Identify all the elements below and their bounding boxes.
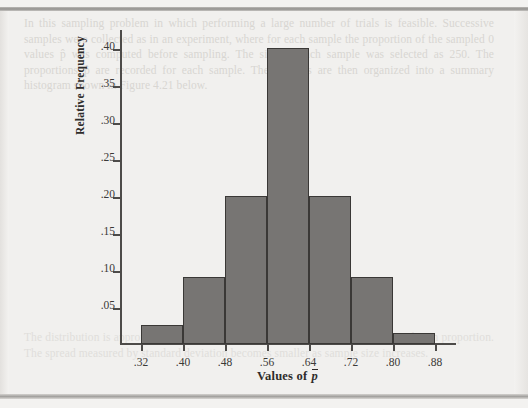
y-axis-tick-label: .25 [101, 152, 115, 164]
textbook-page: In this sampling problem in which perfor… [0, 0, 528, 408]
x-axis-tick-label: .88 [428, 357, 442, 369]
y-axis-line [120, 30, 122, 345]
x-axis-title-text: Values of [257, 369, 311, 383]
x-axis-tick-label: .32 [134, 357, 148, 369]
y-axis-title: Relative Frequency [74, 36, 86, 135]
x-axis-tick-label: .40 [176, 357, 190, 369]
y-axis-tick-label: .30 [101, 115, 115, 127]
x-axis-title: Values of p [120, 369, 456, 384]
x-axis-tick [225, 345, 227, 351]
x-axis-tick-label: .80 [386, 357, 400, 369]
x-axis-tick [183, 345, 185, 351]
histogram-bar [309, 196, 351, 344]
x-axis-tick-label: .64 [302, 357, 316, 369]
p-bar-symbol: p [311, 369, 319, 384]
y-axis-tick-label: .15 [101, 226, 115, 238]
x-axis-tick-label: .72 [344, 357, 358, 369]
histogram-bar [183, 277, 225, 344]
histogram-bar [267, 48, 309, 344]
histogram-bar [393, 333, 435, 344]
y-axis-tick-label: .05 [101, 300, 115, 312]
x-axis-tick [351, 345, 353, 351]
histogram-chart: Relative Frequency .05.10.15.20.25.30.35… [0, 0, 528, 408]
histogram-bar [225, 196, 267, 344]
x-axis-tick [141, 345, 143, 351]
x-axis-tick [267, 345, 269, 351]
x-axis-tick-label: .56 [260, 357, 274, 369]
x-axis-tick [309, 345, 311, 351]
y-axis-tick-label: .40 [101, 41, 115, 53]
y-axis-tick-label: .20 [101, 189, 115, 201]
x-axis-tick-label: .48 [218, 357, 232, 369]
x-axis-tick [435, 345, 437, 351]
y-axis-tick-label: .10 [101, 263, 115, 275]
plot-area: .05.10.15.20.25.30.35.40 .32.40.48.56.64… [120, 30, 456, 345]
histogram-bar [141, 325, 183, 344]
y-axis-tick-label: .35 [101, 78, 115, 90]
histogram-bar [351, 277, 393, 344]
x-axis-tick [393, 345, 395, 351]
